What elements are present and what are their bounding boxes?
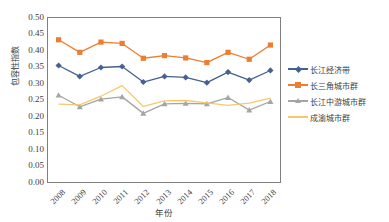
- legend-key-icon: [288, 79, 308, 91]
- data-point: [55, 62, 61, 68]
- legend-label: 长江中游城市群: [310, 96, 366, 107]
- legend-key-icon: [288, 63, 308, 75]
- legend-key-icon: [288, 95, 308, 107]
- data-point: [246, 77, 252, 83]
- y-axis-tick-label: 0.20: [16, 112, 44, 121]
- data-point: [56, 37, 61, 42]
- data-point: [267, 67, 273, 73]
- data-point: [56, 92, 62, 97]
- inclusiveness-index-line-chart: 包容性指数 0.500.450.400.350.300.250.200.150.…: [0, 0, 389, 222]
- legend-label: 长三角城市群: [310, 80, 358, 91]
- data-point: [225, 95, 231, 100]
- data-point: [247, 57, 252, 62]
- data-point: [162, 53, 167, 58]
- legend-label: 成渝城市群: [310, 112, 350, 123]
- y-axis-tick-label: 0.00: [16, 178, 44, 187]
- data-point: [141, 56, 146, 61]
- legend-item-2[interactable]: 长三角城市群: [288, 77, 388, 93]
- y-axis-tick-label: 0.45: [16, 29, 44, 38]
- data-point: [77, 73, 83, 79]
- data-point: [225, 69, 231, 75]
- series-2: [56, 37, 273, 65]
- y-axis-tick-label: 0.30: [16, 79, 44, 88]
- plot-area: [47, 17, 281, 183]
- data-point: [225, 50, 230, 55]
- chart-legend: 长江经济带长三角城市群长江中游城市群成渝城市群: [288, 61, 388, 125]
- y-axis-tick-label: 0.35: [16, 62, 44, 71]
- legend-item-3[interactable]: 长江中游城市群: [288, 93, 388, 109]
- y-axis-tick-label: 0.15: [16, 128, 44, 137]
- series-canvas: [48, 18, 281, 183]
- data-point: [120, 41, 125, 46]
- data-point: [204, 80, 210, 86]
- y-axis-tick-label: 0.05: [16, 161, 44, 170]
- series-1: [55, 62, 273, 85]
- y-axis-tick-labels: 0.500.450.400.350.300.250.200.150.100.05…: [14, 0, 44, 222]
- y-axis-tick-label: 0.40: [16, 46, 44, 55]
- data-point: [183, 74, 189, 80]
- y-axis-tick-label: 0.10: [16, 145, 44, 154]
- y-axis-tick-label: 0.25: [16, 95, 44, 104]
- y-axis-tick-label: 0.50: [16, 13, 44, 22]
- data-point: [98, 64, 104, 70]
- data-point: [77, 50, 82, 55]
- data-point: [268, 42, 273, 47]
- data-point: [161, 73, 167, 79]
- data-point: [183, 55, 188, 60]
- legend-key-icon: [288, 111, 308, 123]
- data-point: [98, 39, 103, 44]
- legend-item-4[interactable]: 成渝城市群: [288, 109, 388, 125]
- legend-label: 长江经济带: [310, 64, 350, 75]
- data-point: [204, 60, 209, 65]
- x-axis-title: 年份: [47, 206, 281, 218]
- legend-item-1[interactable]: 长江经济带: [288, 61, 388, 77]
